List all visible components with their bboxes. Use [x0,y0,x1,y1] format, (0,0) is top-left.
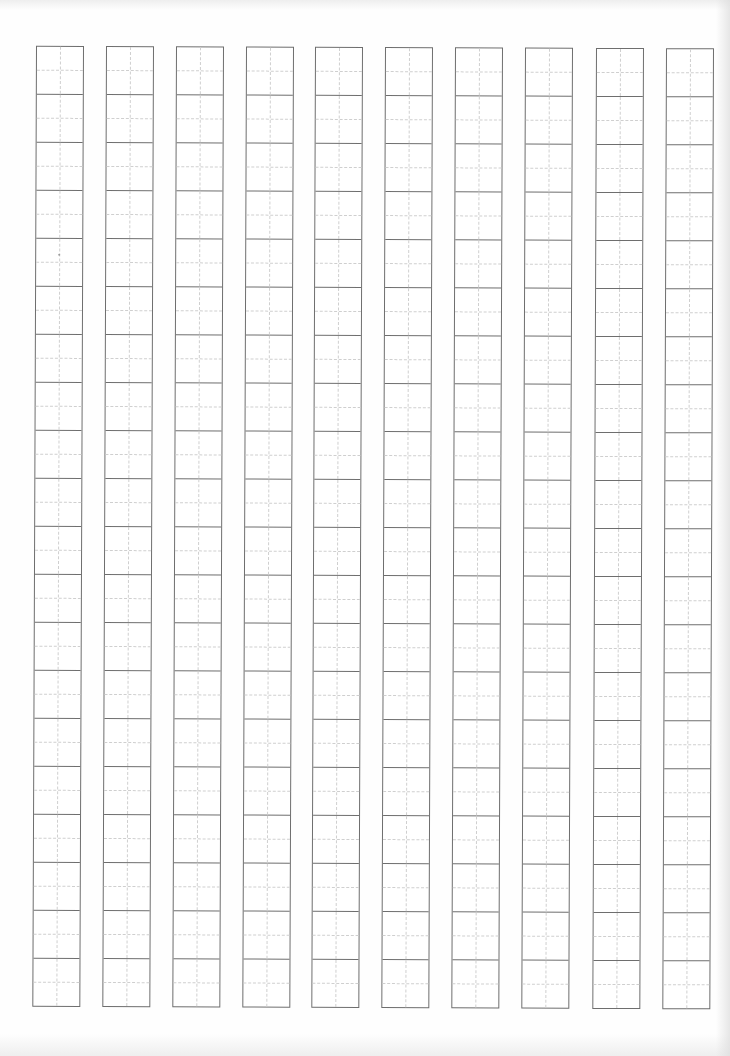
horizontal-guide-line [244,935,290,936]
tianzige-cell [105,527,151,575]
horizontal-guide-line [104,838,150,839]
horizontal-guide-line [595,696,641,697]
horizontal-guide-line [103,982,149,983]
tianzige-cell [455,240,501,288]
horizontal-guide-line [454,599,500,600]
horizontal-guide-line [247,71,293,72]
horizontal-guide-line [597,120,643,121]
horizontal-guide-line [106,262,152,263]
tianzige-cell [312,912,358,960]
horizontal-guide-line [385,359,431,360]
tianzige-cell [383,816,429,864]
horizontal-guide-line [596,408,642,409]
tianzige-cell [453,864,499,912]
horizontal-guide-line [383,935,429,936]
tianzige-cell [176,239,222,287]
horizontal-guide-line [384,599,430,600]
horizontal-guide-line [176,310,222,311]
tianzige-cell [594,721,640,769]
horizontal-guide-line [525,312,571,313]
tianzige-cell [176,143,222,191]
horizontal-guide-line [596,264,642,265]
horizontal-guide-line [454,647,500,648]
horizontal-guide-line [384,503,430,504]
tianzige-cell [104,863,150,911]
tianzige-cell [666,385,712,433]
tianzige-cell [455,288,501,336]
horizontal-guide-line [664,744,710,745]
tianzige-cell [244,816,290,864]
horizontal-guide-line [175,454,221,455]
horizontal-guide-line [382,983,428,984]
horizontal-guide-line [175,502,221,503]
horizontal-guide-line [453,935,499,936]
horizontal-guide-line [663,984,709,985]
tianzige-cell [455,192,501,240]
horizontal-guide-line [452,983,498,984]
horizontal-guide-line [595,456,641,457]
horizontal-guide-line [454,551,500,552]
horizontal-guide-line [315,359,361,360]
horizontal-guide-line [665,600,711,601]
tianzige-cell [104,767,150,815]
tianzige-cell [525,385,571,433]
tianzige-cell [594,769,640,817]
horizontal-guide-line [246,215,292,216]
grid-column-2 [102,46,154,1007]
tianzige-cell [243,912,289,960]
tianzige-cell [106,191,152,239]
tianzige-cell [454,576,500,624]
horizontal-guide-line [313,839,359,840]
horizontal-guide-line [666,360,712,361]
horizontal-guide-line [524,504,570,505]
horizontal-guide-line [665,552,711,553]
horizontal-guide-line [594,888,640,889]
tianzige-cell [176,191,222,239]
horizontal-guide-line [454,503,500,504]
horizontal-guide-line [247,119,293,120]
horizontal-guide-line [385,263,431,264]
tianzige-cell [385,144,431,192]
tianzige-cell [103,959,149,1006]
tianzige-cell [35,479,81,527]
tianzige-cell [247,96,293,144]
tianzige-cell [596,241,642,289]
tianzige-cell [314,528,360,576]
horizontal-guide-line [385,311,431,312]
practice-sheet [0,0,730,1056]
horizontal-guide-line [524,456,570,457]
horizontal-guide-line [383,887,429,888]
horizontal-guide-line [34,886,80,887]
tianzige-cell [663,913,709,961]
tianzige-cell [173,959,219,1006]
horizontal-guide-line [246,407,292,408]
horizontal-guide-line [106,214,152,215]
horizontal-guide-line [104,886,150,887]
horizontal-guide-line [526,120,572,121]
horizontal-guide-line [383,791,429,792]
tianzige-cell [107,47,153,95]
tianzige-cell [34,863,80,911]
horizontal-guide-line [105,502,151,503]
tianzige-cell [453,672,499,720]
tianzige-cell [246,192,292,240]
horizontal-guide-line [525,408,571,409]
grid-column-3 [172,46,224,1007]
tianzige-cell [315,144,361,192]
tianzige-cell [595,433,641,481]
tianzige-cell [34,815,80,863]
tianzige-cell [594,817,640,865]
horizontal-guide-line [174,934,220,935]
tianzige-cell [453,816,499,864]
tianzige-cell [664,673,710,721]
horizontal-guide-line [105,454,151,455]
tianzige-cell [666,241,712,289]
tianzige-cell [664,721,710,769]
horizontal-guide-line [667,72,713,73]
horizontal-guide-line [666,408,712,409]
tianzige-cell [313,816,359,864]
horizontal-guide-line [386,167,432,168]
horizontal-guide-line [596,312,642,313]
tianzige-cell [37,95,83,143]
horizontal-guide-line [175,694,221,695]
